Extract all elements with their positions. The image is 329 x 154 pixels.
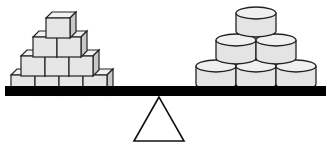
balance-beam: [5, 86, 326, 96]
cylinder: [256, 34, 296, 64]
fulcrum-triangle: [134, 97, 184, 141]
cylinder: [236, 60, 276, 90]
cylinder: [196, 60, 236, 90]
cylinder: [276, 60, 316, 90]
cylinder: [236, 7, 276, 37]
cylinder-pyramid: [196, 7, 316, 90]
cube-pyramid: [11, 12, 113, 95]
cylinder: [216, 34, 256, 64]
cube: [46, 12, 76, 38]
balance-scale-diagram: [0, 0, 329, 154]
